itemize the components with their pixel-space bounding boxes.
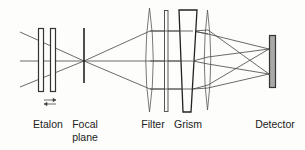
label-grism: Grism <box>170 118 206 130</box>
rays <box>20 30 269 89</box>
label-filter: Filter <box>138 118 168 130</box>
label-focal-plane-line1: Focal <box>68 118 102 130</box>
camera-lens <box>204 10 211 110</box>
collimator-lens <box>146 8 154 112</box>
label-detector: Detector <box>250 118 300 130</box>
label-etalon: Etalon <box>28 118 68 130</box>
detector <box>270 36 276 88</box>
etalon-scan-arrows-icon <box>44 99 56 106</box>
label-focal-plane-line2: plane <box>68 131 102 143</box>
optical-diagram: Etalon Focal plane Filter Grism Detector <box>0 0 305 150</box>
etalon-plates <box>39 29 56 92</box>
